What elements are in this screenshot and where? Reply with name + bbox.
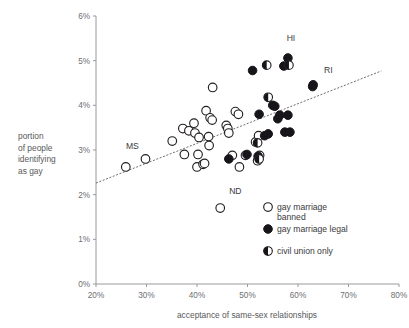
x-axis-title-label: acceptance of same-sex relationships [177, 310, 317, 320]
x-tick-label: 50% [239, 291, 255, 300]
data-point-open-circle [216, 204, 225, 213]
data-point-filled-circle [270, 102, 279, 111]
y-tick-label: 6% [78, 12, 90, 21]
x-axis-ticks: 20%30%40%50%60%70%80% [88, 284, 407, 300]
y-tick-label: 0% [78, 280, 90, 289]
y-axis-ticks: 0%1%2%3%4%5%6% [78, 12, 96, 289]
data-point-half-filled-circle [264, 93, 273, 102]
x-tick-label: 70% [340, 291, 356, 300]
data-point-open-circle [200, 159, 209, 168]
legend-item-civil_union[interactable]: civil union only [264, 246, 334, 256]
y-tick-label: 4% [78, 101, 90, 110]
y-tick-label: 3% [78, 146, 90, 155]
legend-item-legal[interactable]: gay marriage legal [264, 224, 348, 234]
data-point-open-circle [180, 150, 189, 159]
point-annotations: HIRIMSND [126, 33, 333, 196]
data-point-filled-circle [264, 130, 273, 139]
data-point-open-circle [208, 116, 217, 125]
data-point-half-filled-circle [262, 61, 271, 70]
annotation-label: HI [287, 33, 296, 43]
data-point-half-filled-circle [285, 61, 294, 70]
data-point-open-circle [205, 141, 214, 150]
data-point-open-circle [141, 155, 150, 164]
x-tick-label: 20% [88, 291, 104, 300]
legend-label-text: gay marriage [277, 202, 327, 212]
data-point-filled-circle [276, 111, 285, 120]
legend-label-text: civil union only [277, 246, 334, 256]
data-point-filled-circle [286, 128, 295, 137]
x-tick-label: 80% [391, 291, 407, 300]
data-point-open-circle [225, 129, 234, 138]
data-point-filled-circle [243, 150, 252, 159]
data-point-open-circle [195, 133, 204, 142]
y-axis-title: portionof peopleidentifyingas gay [18, 131, 56, 176]
data-point-open-circle [204, 132, 213, 141]
data-point-filled-circle [264, 225, 273, 234]
data-point-open-circle [190, 119, 199, 128]
y-axis-title-line: identifying [18, 154, 56, 164]
data-point-filled-circle [225, 155, 234, 164]
scatter-chart: 0%1%2%3%4%5%6% 20%30%40%50%60%70%80% HIR… [0, 0, 409, 328]
data-point-open-circle [208, 83, 217, 92]
y-tick-label: 1% [78, 235, 90, 244]
data-point-open-circle [121, 163, 130, 172]
data-point-filled-circle [255, 110, 264, 119]
legend-label-text: banned [277, 212, 306, 222]
data-point-open-circle [168, 137, 177, 146]
legend-item-banned[interactable]: gay marriagebanned [264, 202, 328, 222]
data-point-half-filled-circle [264, 247, 273, 256]
data-point-open-circle [264, 203, 273, 212]
data-point-filled-circle [309, 80, 318, 89]
data-point-open-circle [194, 150, 203, 159]
x-tick-label: 30% [138, 291, 154, 300]
data-point-open-circle [235, 163, 244, 172]
data-point-filled-circle [284, 111, 293, 120]
y-axis-title-line: of people [18, 143, 53, 153]
series-gay-marriage-banned [121, 83, 263, 212]
x-tick-label: 40% [189, 291, 205, 300]
chart-canvas: 0%1%2%3%4%5%6% 20%30%40%50%60%70%80% HIR… [0, 0, 409, 328]
annotation-label: ND [229, 186, 241, 196]
y-axis-title-line: as gay [18, 166, 43, 176]
chart-legend: gay marriagebannedgay marriage legalcivi… [264, 202, 348, 256]
y-tick-label: 5% [78, 57, 90, 66]
data-point-open-circle [234, 110, 243, 119]
data-point-filled-circle [248, 66, 257, 75]
annotation-label: MS [126, 141, 139, 151]
annotation-label: RI [324, 65, 333, 75]
legend-label-text: gay marriage legal [277, 224, 348, 234]
y-tick-label: 2% [78, 191, 90, 200]
x-tick-label: 60% [290, 291, 306, 300]
data-point-half-filled-circle [253, 139, 262, 148]
data-point-half-filled-circle [255, 155, 264, 164]
y-axis-title-line: portion [18, 131, 44, 141]
